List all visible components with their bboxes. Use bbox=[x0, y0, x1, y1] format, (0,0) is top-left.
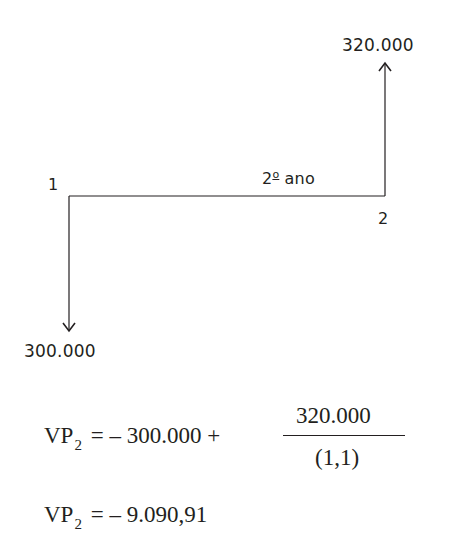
outflow-value: 300.000 bbox=[24, 343, 96, 360]
equation-1-subscript: 2 bbox=[74, 437, 82, 453]
period-ordinal: o bbox=[272, 168, 279, 181]
down-arrow-icon bbox=[63, 196, 75, 331]
equation-1: VP2 = – 300.000 + bbox=[44, 424, 220, 447]
equation-2-subscript: 2 bbox=[74, 516, 82, 532]
equation-1-rhs: = – 300.000 + bbox=[91, 423, 220, 448]
point-1-label: 1 bbox=[48, 177, 58, 193]
period-label: 2o ano bbox=[262, 171, 315, 187]
equation-2: VP2 = – 9.090,91 bbox=[44, 503, 207, 526]
cash-flow-diagram bbox=[0, 0, 453, 559]
up-arrow-icon bbox=[379, 63, 391, 196]
inflow-value: 320.000 bbox=[342, 37, 414, 54]
fraction-numerator: 320.000 bbox=[296, 404, 371, 427]
fraction-denominator: (1,1) bbox=[315, 446, 359, 469]
equation-2-rhs: = – 9.090,91 bbox=[91, 502, 207, 527]
fraction-bar bbox=[283, 435, 405, 436]
period-text: ano bbox=[279, 169, 315, 188]
equation-1-lhs: VP bbox=[44, 423, 73, 448]
period-number: 2 bbox=[262, 169, 272, 188]
equation-2-lhs: VP bbox=[44, 502, 73, 527]
point-2-label: 2 bbox=[378, 211, 388, 227]
